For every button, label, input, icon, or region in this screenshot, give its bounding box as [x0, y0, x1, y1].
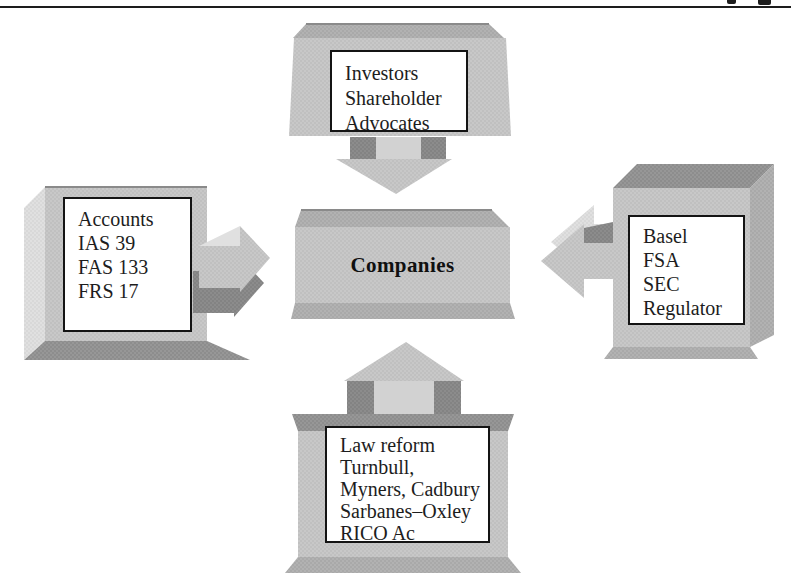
label-line: Advocates — [332, 111, 466, 136]
slab-right-bottom-face — [604, 347, 758, 359]
slab-center-bottom-face — [291, 303, 515, 319]
label-line: Accounts — [65, 207, 190, 231]
label-box-regulators: Basel FSA SEC Regulator — [628, 215, 745, 325]
arrow-down-left-wall — [350, 137, 376, 161]
slab-top-top-face — [293, 24, 504, 38]
label-box-accounts: Accounts IAS 39 FAS 133 FRS 17 — [63, 197, 192, 332]
arrow-down-icon — [336, 137, 452, 194]
arrow-up-right-wall — [434, 381, 461, 415]
label-line: FSA — [630, 248, 743, 272]
slab-center-top-face — [295, 210, 509, 227]
label-line: Myners, Cadbury — [327, 478, 488, 500]
label-box-law-reform: Law reform Turnbull, Myners, Cadbury Sar… — [325, 426, 490, 543]
arrow-down-head — [336, 159, 452, 194]
arrow-up-head — [344, 342, 464, 381]
label-line: SEC — [630, 272, 743, 296]
arrow-up-shaft — [374, 381, 434, 415]
label-box-investors: Investors Shareholder Advocates — [330, 50, 468, 132]
slab-left-bottom-face — [24, 341, 250, 360]
label-line: Regulator — [630, 296, 743, 320]
slab-right-top-face — [613, 164, 774, 188]
label-line: Basel — [630, 224, 743, 248]
scanned-book-figure-page: Investors Shareholder Advocates Accounts… — [0, 0, 791, 587]
arrow-up-icon — [344, 342, 464, 415]
label-line: FRS 17 — [65, 279, 190, 303]
label-line: Shareholder — [332, 86, 466, 111]
label-line: IAS 39 — [65, 231, 190, 255]
label-line: Law reform — [327, 434, 488, 456]
slab-left-side-face — [24, 187, 45, 360]
label-line: Turnbull, — [327, 456, 488, 478]
slab-bottom-bottom-face — [285, 557, 521, 573]
arrow-left-icon — [541, 205, 623, 298]
label-line: RICO Ac — [327, 522, 488, 544]
slab-right-side-face — [750, 164, 774, 347]
label-line: FAS 133 — [65, 255, 190, 279]
companies-label: Companies — [295, 227, 510, 303]
arrow-up-left-wall — [347, 381, 374, 415]
arrow-down-right-wall — [421, 137, 446, 161]
label-line: Investors — [332, 61, 466, 86]
label-line: Sarbanes–Oxley — [327, 500, 488, 522]
arrow-down-shaft — [376, 137, 421, 161]
